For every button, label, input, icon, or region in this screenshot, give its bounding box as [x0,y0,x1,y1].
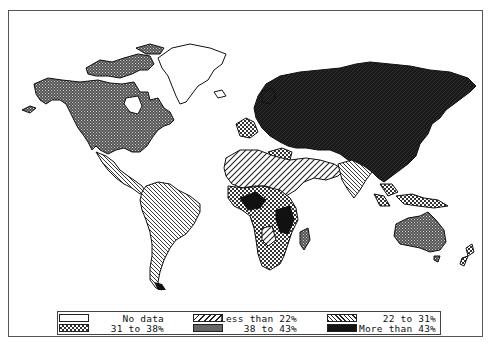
legend-label-gt-43: More than 43% [359,324,436,333]
legend-swatch-22-31 [327,314,357,322]
region-south-america [140,182,200,290]
region-central-america [96,152,146,194]
world-map [0,0,491,343]
legend-label-lt-22: Less than 22% [220,314,297,323]
region-new-zealand [460,244,474,266]
region-north-america [22,44,174,154]
legend-swatch-lt-22 [193,314,223,322]
region-southeast-asia [374,184,448,208]
legend-label-38-43: 38 to 43% [244,324,297,333]
legend-swatch-31-38 [59,324,89,332]
legend-label-no-data: No data [123,314,164,323]
region-greenland [158,44,226,104]
legend-swatch-38-43 [193,324,223,332]
legend: No data 31 to 38% Less than 22% 38 to 43… [57,311,441,335]
region-australia [394,212,446,262]
region-africa [228,186,310,270]
legend-label-31-38: 31 to 38% [111,324,164,333]
legend-swatch-no-data [59,314,89,322]
legend-label-22-31: 22 to 31% [383,314,436,323]
legend-swatch-gt-43 [327,324,357,332]
